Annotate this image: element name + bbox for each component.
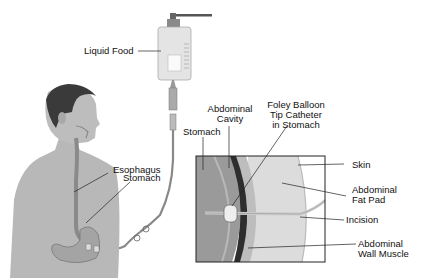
patient-figure	[10, 84, 119, 278]
label-abdominal-fat-pad: Abdominal Fat Pad	[352, 185, 397, 205]
label-wall-muscle-line2: Wall Muscle	[358, 249, 409, 259]
label-foley-catheter: Foley Balloon Tip Catheter in Stomach	[261, 100, 331, 130]
feeding-bag	[158, 27, 191, 80]
label-abdominal-wall-muscle: Abdominal Wall Muscle	[358, 239, 409, 259]
label-abdominal-cavity-line2: Cavity	[206, 114, 254, 124]
label-incision: Incision	[346, 215, 378, 225]
label-skin: Skin	[352, 160, 370, 170]
label-abdominal-cavity: Abdominal Cavity	[206, 104, 254, 124]
iv-hanger	[167, 13, 212, 28]
illustration	[0, 0, 427, 278]
label-foley-line3: in Stomach	[261, 120, 331, 130]
label-fat-pad-line2: Fat Pad	[352, 195, 397, 205]
label-liquid-food: Liquid Food	[84, 46, 134, 56]
label-stomach-inset: Stomach	[183, 127, 221, 137]
label-stomach-body: Stomach	[123, 173, 161, 183]
